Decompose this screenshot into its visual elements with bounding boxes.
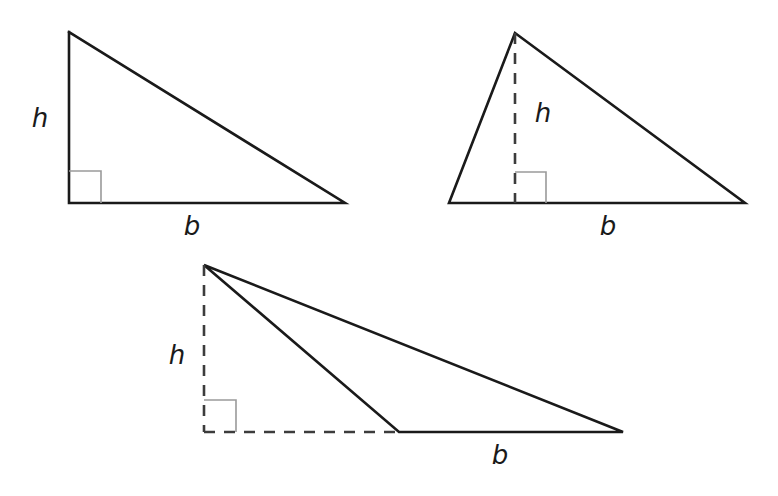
right-triangle-outline — [69, 32, 345, 203]
acute-triangle-right-angle-icon — [515, 172, 546, 203]
acute-triangle-outline — [449, 33, 745, 203]
right-triangle-right-angle-icon — [69, 171, 101, 203]
acute-triangle-height-label: h — [535, 98, 551, 128]
obtuse-triangle-group: h b — [169, 265, 623, 470]
obtuse-triangle-right-angle-icon — [204, 400, 236, 432]
acute-triangle-group: h b — [449, 33, 745, 241]
right-triangle-group: h b — [32, 32, 345, 241]
acute-triangle-base-label: b — [600, 211, 617, 241]
obtuse-triangle-height-label: h — [169, 340, 185, 370]
right-triangle-base-label: b — [184, 211, 201, 241]
geometry-figure: h b h b h b — [0, 0, 778, 496]
obtuse-triangle-base-label: b — [492, 440, 509, 470]
right-triangle-height-label: h — [32, 103, 48, 133]
obtuse-triangle-outline — [204, 265, 623, 432]
figure-canvas: h b h b h b — [0, 0, 778, 496]
